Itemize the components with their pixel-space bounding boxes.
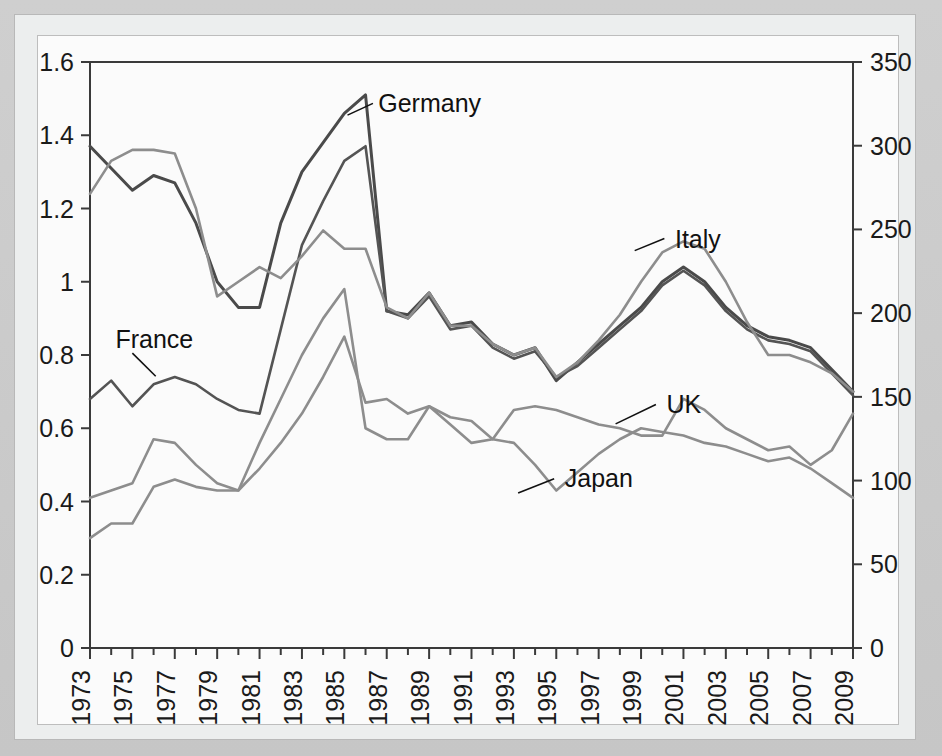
y-tick-label-right: 50 bbox=[870, 550, 898, 578]
x-tick-label: 1997 bbox=[576, 670, 604, 726]
x-tick-label: 1985 bbox=[321, 670, 349, 726]
y-tick-label-left: 0.2 bbox=[39, 561, 74, 589]
series-leader-france bbox=[132, 353, 155, 376]
series-label-japan: Japan bbox=[565, 464, 633, 492]
y-tick-label-right: 250 bbox=[870, 215, 912, 243]
y-tick-label-right: 150 bbox=[870, 383, 912, 411]
x-tick-label: 1981 bbox=[237, 670, 265, 726]
series-label-germany: Germany bbox=[378, 89, 481, 117]
x-tick-label: 2001 bbox=[660, 670, 688, 726]
series-line-france bbox=[90, 146, 853, 413]
x-tick-label: 1987 bbox=[364, 670, 392, 726]
series-label-uk: UK bbox=[666, 390, 701, 418]
y-tick-label-right: 0 bbox=[870, 634, 884, 662]
y-tick-label-left: 0 bbox=[60, 634, 74, 662]
y-tick-label-left: 1.4 bbox=[39, 121, 74, 149]
x-tick-label: 1993 bbox=[491, 670, 519, 726]
y-tick-label-left: 1.6 bbox=[39, 48, 74, 76]
x-tick-label: 1983 bbox=[279, 670, 307, 726]
series-leader-uk bbox=[616, 404, 656, 423]
y-tick-label-left: 1 bbox=[60, 268, 74, 296]
x-tick-label: 2007 bbox=[788, 670, 816, 726]
x-tick-label: 2009 bbox=[830, 670, 858, 726]
x-tick-label: 2003 bbox=[703, 670, 731, 726]
x-tick-label: 1999 bbox=[618, 670, 646, 726]
x-tick-label: 2005 bbox=[745, 670, 773, 726]
series-line-uk bbox=[90, 337, 853, 498]
chart-page: 00.20.40.60.811.21.41.605010015020025030… bbox=[0, 0, 942, 756]
series-leader-italy bbox=[635, 239, 665, 251]
y-tick-label-left: 0.4 bbox=[39, 488, 74, 516]
series-leader-japan bbox=[518, 479, 554, 493]
y-tick-label-left: 1.2 bbox=[39, 195, 74, 223]
chart-plot-area: 00.20.40.60.811.21.41.605010015020025030… bbox=[0, 0, 942, 756]
x-tick-label: 1989 bbox=[406, 670, 434, 726]
series-label-france: France bbox=[115, 325, 193, 353]
x-tick-label: 1975 bbox=[109, 670, 137, 726]
series-leader-germany bbox=[348, 103, 373, 115]
x-tick-label: 1977 bbox=[152, 670, 180, 726]
y-tick-label-left: 0.8 bbox=[39, 341, 74, 369]
line-chart-svg: 00.20.40.60.811.21.41.605010015020025030… bbox=[0, 0, 942, 756]
series-line-italy bbox=[90, 150, 853, 392]
x-tick-label: 1979 bbox=[194, 670, 222, 726]
y-tick-label-right: 350 bbox=[870, 48, 912, 76]
y-tick-label-right: 200 bbox=[870, 299, 912, 327]
y-tick-label-left: 0.6 bbox=[39, 414, 74, 442]
y-tick-label-right: 300 bbox=[870, 132, 912, 160]
x-tick-label: 1995 bbox=[533, 670, 561, 726]
x-tick-label: 1973 bbox=[67, 670, 95, 726]
x-tick-label: 1991 bbox=[449, 670, 477, 726]
series-label-italy: Italy bbox=[675, 225, 721, 253]
y-tick-label-right: 100 bbox=[870, 467, 912, 495]
